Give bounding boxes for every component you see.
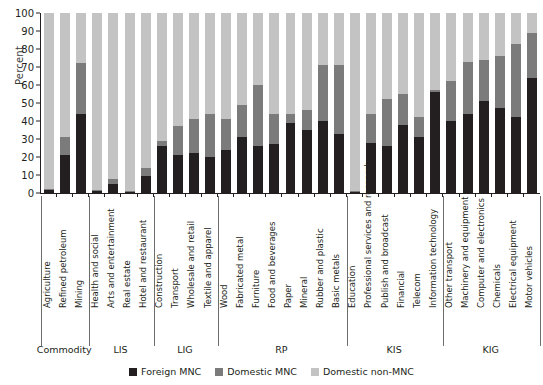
bar-segment-dnon	[527, 13, 537, 33]
bar-segment-fmnc	[221, 150, 231, 193]
bar-segment-dmnc	[382, 99, 392, 146]
bar-segment-fmnc	[527, 78, 537, 193]
bar[interactable]	[60, 13, 70, 193]
y-tick-mark	[36, 175, 40, 176]
x-category-label: Chemicals	[493, 264, 502, 308]
legend-item[interactable]: Domestic non-MNC	[311, 366, 414, 377]
bar-segment-fmnc	[302, 130, 312, 193]
x-category-label: Agriculture	[43, 261, 52, 308]
group-label: Commodity	[37, 344, 92, 355]
bar-segment-dmnc	[269, 114, 279, 145]
group-label: LIG	[177, 344, 192, 355]
x-category-label: Refined petroleum	[59, 229, 68, 308]
bar[interactable]	[463, 13, 473, 193]
bar[interactable]	[398, 13, 408, 193]
bar[interactable]	[269, 13, 279, 193]
bar-segment-dnon	[92, 13, 102, 190]
bar[interactable]	[205, 13, 215, 193]
bar-segment-dnon	[495, 13, 505, 56]
bar[interactable]	[237, 13, 247, 193]
x-category-label: Machinery and equipment	[461, 196, 470, 308]
bar[interactable]	[125, 13, 135, 193]
group-separator	[218, 196, 219, 346]
bar-segment-dmnc	[366, 114, 376, 143]
bar[interactable]	[253, 13, 263, 193]
bar-segment-dmnc	[221, 119, 231, 150]
bar-segment-fmnc	[350, 192, 360, 193]
legend-item[interactable]: Domestic MNC	[215, 366, 297, 377]
y-tick-mark	[36, 13, 40, 14]
bar-segment-dmnc	[76, 63, 86, 113]
group-label: KIS	[387, 344, 402, 355]
bar-segment-dmnc	[157, 141, 167, 146]
bar-segment-dmnc	[511, 44, 521, 118]
bar[interactable]	[92, 13, 102, 193]
bar[interactable]	[157, 13, 167, 193]
bar-segment-dnon	[334, 13, 344, 65]
bar-segment-fmnc	[398, 125, 408, 193]
group-label: LIS	[113, 344, 127, 355]
bar-segment-dmnc	[318, 65, 328, 121]
bar-segment-fmnc	[479, 101, 489, 193]
bar-segment-dnon	[463, 13, 473, 62]
bar-segment-dmnc	[495, 56, 505, 108]
bar-segment-dnon	[189, 13, 199, 119]
x-category-label: Textile and apparel	[204, 227, 213, 308]
x-category-label: Basic metals	[332, 254, 341, 308]
x-category-label: Publish and broadcast	[381, 214, 390, 308]
bar[interactable]	[173, 13, 183, 193]
bar[interactable]	[479, 13, 489, 193]
y-tick-mark	[36, 67, 40, 68]
bar-segment-dnon	[479, 13, 489, 60]
x-axis-line	[40, 193, 540, 194]
bar-segment-fmnc	[92, 191, 102, 193]
bar[interactable]	[318, 13, 328, 193]
legend-item[interactable]: Foreign MNC	[129, 366, 201, 377]
bar[interactable]	[189, 13, 199, 193]
y-tick-mark	[36, 157, 40, 158]
x-category-label: Computer and electronics	[477, 198, 486, 308]
bar-segment-fmnc	[463, 114, 473, 193]
y-tick-mark	[36, 49, 40, 50]
x-category-label: Information technology	[429, 209, 438, 308]
x-category-label: Electrical equipment	[509, 220, 518, 308]
bar-segment-dnon	[302, 13, 312, 110]
bar[interactable]	[382, 13, 392, 193]
bar-segment-fmnc	[141, 176, 151, 193]
bar[interactable]	[108, 13, 118, 193]
bar[interactable]	[334, 13, 344, 193]
group-separator	[89, 196, 90, 346]
x-category-label: Furniture	[252, 270, 261, 308]
x-category-label: Financial	[397, 271, 406, 308]
bar[interactable]	[221, 13, 231, 193]
bar-segment-dnon	[44, 13, 54, 189]
bar-segment-dmnc	[205, 114, 215, 157]
group-separator	[347, 196, 348, 346]
bar-segment-fmnc	[318, 121, 328, 193]
bar[interactable]	[76, 13, 86, 193]
bar-segment-dnon	[157, 13, 167, 141]
bar[interactable]	[350, 13, 360, 193]
legend-label: Domestic non-MNC	[323, 366, 414, 377]
bar[interactable]	[302, 13, 312, 193]
y-tick-mark	[36, 85, 40, 86]
bar[interactable]	[414, 13, 424, 193]
group-label: RP	[275, 344, 287, 355]
bar[interactable]	[527, 13, 537, 193]
x-category-label: Wholesale and retail	[187, 221, 196, 308]
bar[interactable]	[446, 13, 456, 193]
x-category-label: Motor vehicles	[525, 246, 534, 308]
group-label: KIG	[483, 344, 499, 355]
bar-segment-dmnc	[302, 110, 312, 130]
bar-segment-dmnc	[237, 105, 247, 137]
bar[interactable]	[286, 13, 296, 193]
bar[interactable]	[141, 13, 151, 193]
bar[interactable]	[44, 13, 54, 193]
x-category-label: Arts and entertainment	[107, 208, 116, 308]
bar[interactable]	[511, 13, 521, 193]
bar[interactable]	[430, 13, 440, 193]
bar[interactable]	[495, 13, 505, 193]
bar-segment-fmnc	[44, 190, 54, 193]
bar-segment-dnon	[318, 13, 328, 65]
bar-segment-dmnc	[398, 94, 408, 125]
